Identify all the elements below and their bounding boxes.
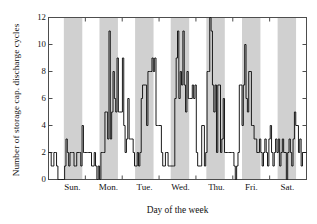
day-shading-band [64,18,82,180]
x-axis-label: Day of the week [48,205,307,215]
chart-figure: Number of storage cap. discharge cycles … [0,0,317,224]
x-tick-label-sat: Sat. [265,183,310,192]
day-shading-band [135,18,153,180]
